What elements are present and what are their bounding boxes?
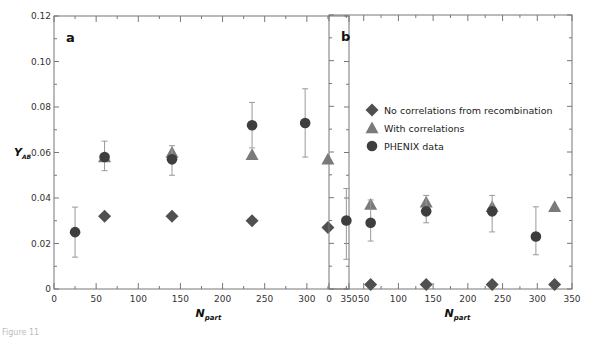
panel-letter: a	[66, 30, 75, 45]
y-tick-label: 0.04	[31, 193, 51, 203]
triangle-marker	[246, 148, 259, 160]
circle-marker	[487, 206, 498, 217]
x-tick-label: 350	[563, 294, 580, 304]
circle-marker	[300, 118, 311, 129]
x-tick-label: 50	[90, 294, 102, 304]
x-tick-label: 100	[130, 294, 147, 304]
figure-caption: Figure 11	[2, 328, 39, 337]
legend-label: With correlations	[384, 123, 465, 134]
x-tick-label: 150	[172, 294, 189, 304]
circle-marker	[70, 227, 81, 238]
x-tick-label: 200	[459, 294, 476, 304]
x-tick-label: 200	[214, 294, 231, 304]
triangle-marker	[321, 153, 334, 165]
x-axis-title: Npart	[196, 307, 222, 322]
y-tick-label: 0.02	[31, 239, 51, 249]
panel-b: 050100150200250300350bNpart	[326, 15, 581, 322]
panel-a: 05010015020025030035000.020.040.060.080.…	[14, 11, 358, 322]
triangle-marker	[548, 200, 561, 212]
circle-marker	[99, 152, 110, 163]
diamond-marker	[98, 210, 111, 223]
circle-marker	[365, 217, 376, 228]
y-tick-label: 0	[45, 284, 51, 294]
y-axis-title: YAB	[14, 146, 32, 160]
diamond-marker	[166, 210, 179, 223]
triangle-legend-icon	[366, 122, 379, 134]
circle-legend-icon	[367, 141, 378, 152]
x-tick-label: 300	[529, 294, 546, 304]
panel-letter: b	[341, 29, 350, 44]
circle-marker	[247, 120, 258, 131]
legend-label: No correlations from recombination	[384, 105, 553, 116]
legend: No correlations from recombinationWith c…	[366, 104, 553, 152]
circle-marker	[341, 215, 352, 226]
legend-label: PHENIX data	[384, 141, 444, 152]
y-tick-label: 0.10	[31, 57, 51, 67]
diamond-marker	[321, 221, 334, 234]
circle-marker	[167, 154, 178, 165]
y-tick-label: 0.12	[31, 11, 51, 21]
x-tick-label: 250	[256, 294, 273, 304]
circle-marker	[531, 231, 542, 242]
diamond-marker	[246, 214, 259, 227]
x-tick-label: 350	[340, 294, 357, 304]
x-tick-label: 150	[425, 294, 442, 304]
x-axis-title: Npart	[445, 307, 471, 322]
y-tick-label: 0.06	[31, 148, 51, 158]
x-tick-label: 300	[298, 294, 315, 304]
diamond-legend-icon	[366, 104, 379, 117]
x-tick-label: 50	[358, 294, 370, 304]
circle-marker	[421, 206, 432, 217]
x-tick-label: 0	[51, 294, 57, 304]
x-tick-label: 0	[326, 294, 332, 304]
x-tick-label: 250	[494, 294, 511, 304]
x-tick-label: 100	[390, 294, 407, 304]
y-tick-label: 0.08	[31, 102, 51, 112]
figure: 05010015020025030035000.020.040.060.080.…	[0, 0, 593, 339]
